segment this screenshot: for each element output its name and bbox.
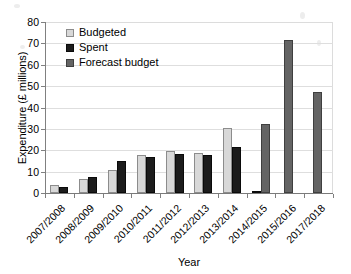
legend-label-forecast-budget: Forecast budget — [79, 57, 159, 68]
x-axis-tick — [131, 194, 132, 198]
legend-swatch-forecast-budget-icon — [66, 59, 74, 67]
x-axis-tick — [45, 194, 46, 198]
y-axis-tick-label: 40 — [13, 103, 39, 113]
legend-label-budgeted: Budgeted — [79, 27, 126, 38]
y-axis-tick — [41, 86, 45, 87]
bar-budgeted — [194, 153, 203, 193]
bar-spent — [146, 157, 155, 193]
y-axis-tick-label: 30 — [13, 124, 39, 134]
x-axis-tick — [247, 194, 248, 198]
legend-swatch-budgeted-icon — [66, 29, 74, 37]
x-axis-tick — [103, 194, 104, 198]
bar-spent — [252, 191, 261, 193]
x-axis-title: Year — [45, 256, 333, 268]
y-axis-tick-label: 60 — [13, 60, 39, 70]
y-axis-tick — [41, 43, 45, 44]
y-axis-tick — [41, 22, 45, 23]
legend-item-forecast-budget: Forecast budget — [66, 55, 159, 70]
bar-budgeted — [108, 170, 117, 193]
plot-border-top — [45, 22, 333, 23]
x-axis-tick — [160, 194, 161, 198]
y-axis-tick-label: 80 — [13, 17, 39, 27]
bar-spent — [175, 154, 184, 193]
x-axis-tick — [189, 194, 190, 198]
bar-budgeted — [137, 155, 146, 193]
x-axis-tick — [333, 194, 334, 198]
bar-spent — [59, 187, 68, 193]
bar-forecast — [261, 124, 270, 193]
bar-chart: Expenditure (£ millions) Year 0102030405… — [0, 0, 351, 274]
y-axis-tick-label: 50 — [13, 81, 39, 91]
bar-spent — [117, 161, 126, 193]
y-axis-tick-label: 10 — [13, 167, 39, 177]
bar-spent — [232, 147, 241, 193]
bar-budgeted — [50, 185, 59, 193]
y-axis-tick — [41, 129, 45, 130]
legend-label-spent: Spent — [79, 42, 108, 53]
chart-legend: Budgeted Spent Forecast budget — [66, 25, 159, 70]
x-axis-tick — [304, 194, 305, 198]
x-axis-tick — [74, 194, 75, 198]
bar-forecast — [284, 40, 293, 193]
x-axis-tick — [218, 194, 219, 198]
y-axis-tick-label: 20 — [13, 145, 39, 155]
bar-budgeted — [223, 128, 232, 193]
y-axis-tick — [41, 172, 45, 173]
bar-spent — [88, 177, 97, 193]
x-axis-tick — [275, 194, 276, 198]
y-axis-tick — [41, 108, 45, 109]
legend-swatch-spent-icon — [66, 44, 74, 52]
bar-spent — [203, 155, 212, 193]
legend-item-spent: Spent — [66, 40, 159, 55]
y-axis-tick-label: 0 — [13, 188, 39, 198]
scan-speckle — [300, 12, 305, 19]
bar-forecast — [313, 92, 322, 193]
y-axis-tick-label: 70 — [13, 38, 39, 48]
scan-speckle — [14, 4, 20, 8]
y-axis-tick — [41, 150, 45, 151]
bar-budgeted — [166, 151, 175, 193]
bar-budgeted — [79, 179, 88, 193]
legend-item-budgeted: Budgeted — [66, 25, 159, 40]
y-axis-tick — [41, 65, 45, 66]
